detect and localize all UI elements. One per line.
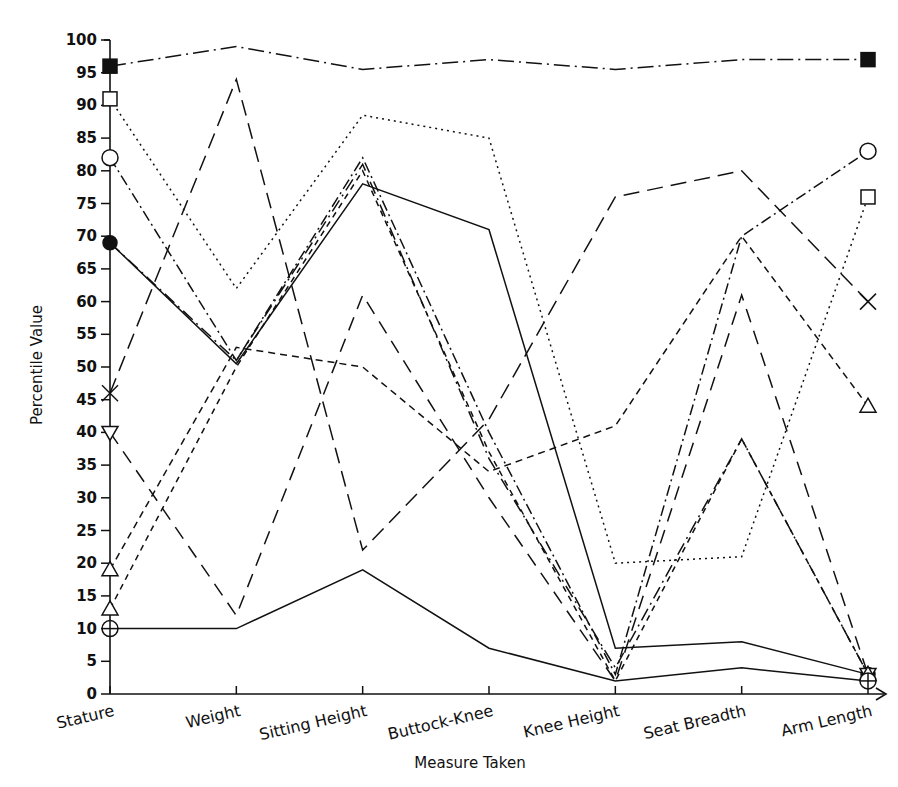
data-series-group <box>110 47 868 681</box>
y-tick-label: 65 <box>76 260 97 278</box>
series-line-subject-6 <box>110 295 868 681</box>
filled-square-marker <box>103 59 117 73</box>
y-tick-label: 40 <box>76 423 97 441</box>
percentile-line-chart: 0510152025303540455055606570758085909510… <box>0 0 898 787</box>
y-tick-label: 30 <box>76 489 97 507</box>
y-tick-label: 15 <box>76 587 97 605</box>
series-endpoints-subject-2 <box>103 92 875 204</box>
y-axis: 0510152025303540455055606570758085909510… <box>28 31 110 703</box>
x-tick-labels: StatureWeightSitting HeightButtock-KneeK… <box>55 701 874 744</box>
y-tick-label: 10 <box>76 620 97 638</box>
y-tick-label: 75 <box>76 195 97 213</box>
open-square-marker <box>861 190 875 204</box>
series-endpoints-subject-1 <box>103 53 875 74</box>
filled-circle-marker <box>103 236 117 250</box>
open-circle-marker <box>860 143 876 159</box>
y-tick-marks <box>101 40 110 694</box>
y-tick-label: 20 <box>76 554 97 572</box>
x-tick-label: Buttock-Knee <box>386 701 495 744</box>
series-endpoints-subject-5 <box>102 294 876 402</box>
y-tick-label: 100 <box>66 31 97 49</box>
y-tick-label: 95 <box>76 64 97 82</box>
x-tick-label: Knee Height <box>521 701 621 742</box>
open-triangle-marker <box>860 398 876 412</box>
x-tick-label: Weight <box>184 701 243 732</box>
series-line-subject-9 <box>110 570 868 681</box>
y-tick-label: 0 <box>87 685 97 703</box>
y-tick-label: 25 <box>76 522 97 540</box>
series-endpoints-subject-3 <box>102 143 876 166</box>
open-circle-marker <box>102 150 118 166</box>
y-tick-label: 35 <box>76 456 97 474</box>
series-line-subject-4 <box>110 184 868 675</box>
y-tick-label: 70 <box>76 227 97 245</box>
x-tick-label: Sitting Height <box>257 701 368 744</box>
chart-figure: 0510152025303540455055606570758085909510… <box>0 0 898 787</box>
x-axis-title: Measure Taken <box>414 754 525 772</box>
y-tick-label: 55 <box>76 325 97 343</box>
y-tick-label: 5 <box>87 652 97 670</box>
down-triangle-marker <box>102 426 118 440</box>
series-line-subject-7 <box>110 236 868 570</box>
data-markers-group <box>102 53 876 689</box>
series-line-subject-5 <box>110 79 868 550</box>
series-line-subject-10 <box>110 164 868 674</box>
series-endpoints-subject-9 <box>102 621 876 689</box>
y-tick-label: 50 <box>76 358 97 376</box>
y-tick-label: 60 <box>76 293 97 311</box>
y-tick-label: 85 <box>76 129 97 147</box>
y-tick-labels: 0510152025303540455055606570758085909510… <box>66 31 97 703</box>
series-line-subject-1 <box>110 47 868 70</box>
y-tick-label: 45 <box>76 391 97 409</box>
x-tick-label: Seat Breadth <box>642 701 748 743</box>
series-endpoints-subject-7 <box>102 398 876 576</box>
open-triangle-b-marker <box>102 601 118 615</box>
y-axis-title: Percentile Value <box>28 305 46 425</box>
series-endpoints-subject-6 <box>102 426 876 682</box>
open-square-marker <box>103 92 117 106</box>
series-line-subject-8 <box>110 171 868 681</box>
filled-square-marker <box>861 53 875 67</box>
x-axis: StatureWeightSitting HeightButtock-KneeK… <box>55 686 886 772</box>
x-tick-label: Arm Length <box>779 701 874 740</box>
x-tick-label: Stature <box>55 701 116 733</box>
x-tick-marks <box>110 686 868 694</box>
y-tick-label: 80 <box>76 162 97 180</box>
y-tick-label: 90 <box>76 96 97 114</box>
series-endpoints-subject-8 <box>102 601 876 680</box>
